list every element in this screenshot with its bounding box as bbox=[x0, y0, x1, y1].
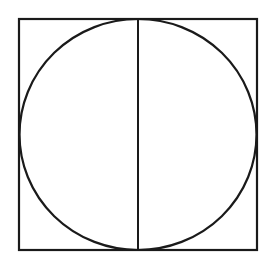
diagram-canvas bbox=[0, 0, 267, 262]
